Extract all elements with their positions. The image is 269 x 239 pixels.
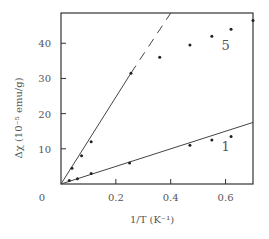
data-point-series-5 bbox=[158, 56, 161, 59]
x-tick-label: 0.2 bbox=[108, 192, 124, 203]
chart: 0.20.40.6102030400 51 1/T (K⁻¹) Δχ (10⁻⁵… bbox=[0, 0, 269, 239]
y-tick-label: 20 bbox=[38, 109, 51, 120]
data-point-series-5 bbox=[188, 44, 191, 47]
series-label-1: 1 bbox=[221, 139, 229, 154]
tick-labels: 0.20.40.6102030400 bbox=[38, 38, 233, 203]
y-tick-label: 10 bbox=[38, 144, 51, 155]
data-point-series-1 bbox=[230, 135, 233, 138]
y-axis-label: Δχ (10⁻⁵ emu/g) bbox=[13, 77, 24, 158]
axis-ticks bbox=[61, 43, 226, 184]
x-axis-label: 1/T (K⁻¹) bbox=[130, 214, 174, 225]
data-point-series-1 bbox=[68, 179, 71, 182]
y-tick-label: 40 bbox=[38, 38, 51, 49]
origin-label: 0 bbox=[39, 192, 45, 203]
x-tick-label: 0.4 bbox=[163, 192, 179, 203]
data-point-series-5 bbox=[129, 72, 132, 75]
data-point-series-5 bbox=[210, 35, 213, 38]
series-labels: 51 bbox=[221, 38, 229, 153]
data-point-series-5 bbox=[252, 19, 255, 22]
data-point-series-1 bbox=[188, 144, 191, 147]
data-point-series-5 bbox=[230, 28, 233, 31]
y-tick-label: 30 bbox=[38, 73, 51, 84]
data-point-series-5 bbox=[80, 154, 83, 157]
x-tick-label: 0.6 bbox=[218, 192, 234, 203]
data-point-series-1 bbox=[76, 177, 79, 180]
data-point-series-5 bbox=[70, 167, 73, 170]
data-point-series-1 bbox=[210, 139, 213, 142]
data-point-series-1 bbox=[90, 172, 93, 175]
fit-line-extrapolated-5 bbox=[131, 13, 171, 73]
series-label-5: 5 bbox=[221, 38, 229, 53]
data-point-series-5 bbox=[90, 140, 93, 143]
data-point-series-1 bbox=[128, 161, 131, 164]
